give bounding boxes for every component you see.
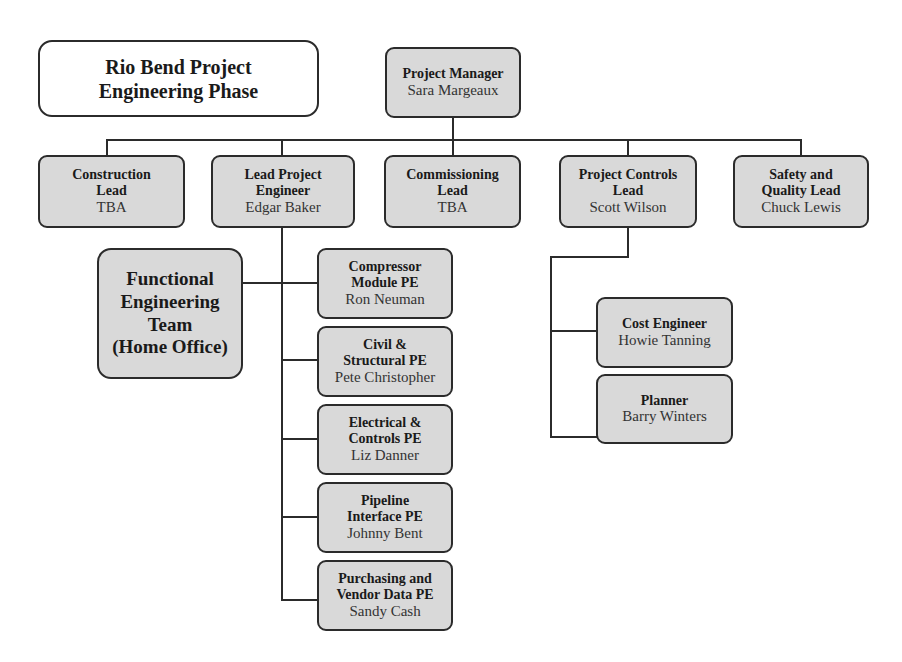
role-label: Lead <box>613 183 643 199</box>
person-name: Pete Christopher <box>335 369 435 386</box>
role-label: Module PE <box>351 275 418 291</box>
node-cost-engineer: Cost Engineer Howie Tanning <box>596 297 733 368</box>
role-label: Lead <box>437 183 467 199</box>
person-name: Sara Margeaux <box>408 82 499 99</box>
connector-pc-down <box>627 227 629 257</box>
role-label: Planner <box>641 393 688 409</box>
role-label: Safety and <box>769 167 832 183</box>
role-label: Construction <box>72 167 151 183</box>
person-name: Johnny Bent <box>347 525 422 542</box>
role-label: Interface PE <box>347 509 423 525</box>
node-compressor-module-pe: Compressor Module PE Ron Neuman <box>317 248 453 319</box>
connector-construction <box>106 139 108 156</box>
team-label: (Home Office) <box>112 336 228 359</box>
role-label: Lead <box>96 183 126 199</box>
chart-title-box: Rio Bend Project Engineering Phase <box>38 40 319 117</box>
connector-commissioning <box>452 139 454 156</box>
role-label: Lead Project <box>244 167 321 183</box>
person-name: Liz Danner <box>351 447 419 464</box>
connector-project-controls <box>627 139 629 156</box>
role-label: Civil & <box>363 337 407 353</box>
person-name: Ron Neuman <box>345 291 425 308</box>
node-functional-engineering-team: Functional Engineering Team (Home Office… <box>97 248 243 379</box>
role-label: Controls PE <box>348 431 421 447</box>
role-label: Cost Engineer <box>622 316 707 332</box>
role-label: Structural PE <box>343 353 427 369</box>
node-planner: Planner Barry Winters <box>596 374 733 444</box>
connector-planner <box>550 436 597 438</box>
role-label: Purchasing and <box>338 571 432 587</box>
person-name: Barry Winters <box>622 408 707 425</box>
team-label: Engineering <box>120 291 219 314</box>
role-label: Compressor <box>349 259 422 275</box>
role-label: Commissioning <box>406 167 499 183</box>
role-label: Pipeline <box>361 493 409 509</box>
connector-purchasing <box>281 599 318 601</box>
person-name: TBA <box>438 199 468 216</box>
title-line-1: Rio Bend Project <box>105 55 251 79</box>
team-label: Team <box>148 314 193 337</box>
person-name: Chuck Lewis <box>761 199 841 216</box>
person-name: Scott Wilson <box>589 199 666 216</box>
person-name: Howie Tanning <box>618 332 710 349</box>
node-safety-quality-lead: Safety and Quality Lead Chuck Lewis <box>733 155 869 228</box>
node-lead-project-engineer: Lead Project Engineer Edgar Baker <box>211 155 355 228</box>
connector-functional-team <box>242 282 318 284</box>
role-label: Engineer <box>256 183 310 199</box>
role-label: Project Controls <box>579 167 678 183</box>
connector-cost-engineer <box>550 330 597 332</box>
node-project-manager: Project Manager Sara Margeaux <box>385 47 521 118</box>
node-project-controls-lead: Project Controls Lead Scott Wilson <box>559 155 697 228</box>
connector-pc-jog <box>550 256 629 258</box>
node-electrical-controls-pe: Electrical & Controls PE Liz Danner <box>317 404 453 475</box>
role-label: Quality Lead <box>762 183 841 199</box>
node-commissioning-lead: Commissioning Lead TBA <box>384 155 521 228</box>
role-label: Vendor Data PE <box>336 587 433 603</box>
person-name: TBA <box>97 199 127 216</box>
team-label: Functional <box>126 268 214 291</box>
node-construction-lead: Construction Lead TBA <box>38 155 185 228</box>
connector-safety <box>800 139 802 156</box>
connector-pipeline <box>281 516 318 518</box>
title-line-2: Engineering Phase <box>99 79 258 103</box>
role-label: Project Manager <box>402 66 503 82</box>
node-purchasing-vendor-data-pe: Purchasing and Vendor Data PE Sandy Cash <box>317 560 453 631</box>
connector-pc-trunk <box>550 256 552 438</box>
connector-electrical <box>281 438 318 440</box>
connector-civil <box>281 359 318 361</box>
connector-lead-pe <box>281 139 283 156</box>
role-label: Electrical & <box>349 415 422 431</box>
node-pipeline-interface-pe: Pipeline Interface PE Johnny Bent <box>317 482 453 553</box>
connector-pm-down <box>452 117 454 141</box>
person-name: Sandy Cash <box>349 603 420 620</box>
node-civil-structural-pe: Civil & Structural PE Pete Christopher <box>317 326 453 397</box>
person-name: Edgar Baker <box>245 199 320 216</box>
